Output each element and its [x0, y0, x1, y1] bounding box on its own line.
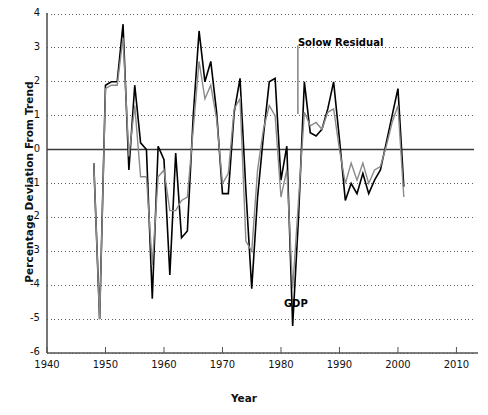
chart-figure: Percentage Deviation From Trend Year 432…	[0, 0, 488, 415]
x-axis-title: Year	[0, 392, 488, 404]
y-tick-label: -1	[14, 177, 40, 188]
y-tick-label: -2	[14, 210, 40, 221]
y-tick-label: 1	[14, 109, 40, 120]
y-tick-label: 3	[14, 41, 40, 52]
axis-spines	[47, 13, 478, 353]
axis-ticks	[47, 347, 456, 353]
y-tick-label: -5	[14, 312, 40, 323]
x-tick-label: 2000	[376, 359, 420, 370]
solow-residual-annotation: Solow Residual	[298, 37, 383, 48]
grid-lines	[47, 14, 474, 353]
x-tick-label: 1980	[259, 359, 303, 370]
chart-plot-area	[0, 0, 488, 415]
x-tick-label: 1970	[200, 359, 244, 370]
series-lines	[94, 24, 404, 326]
y-tick-label: 4	[14, 7, 40, 18]
y-tick-label: -6	[14, 346, 40, 357]
y-tick-label: -3	[14, 244, 40, 255]
x-tick-label: 1990	[317, 359, 361, 370]
x-tick-label: 1960	[142, 359, 186, 370]
y-tick-label: -4	[14, 278, 40, 289]
gdp-annotation: GDP	[284, 298, 308, 309]
y-tick-label: 2	[14, 75, 40, 86]
x-tick-label: 1950	[83, 359, 127, 370]
x-tick-label: 2010	[434, 359, 478, 370]
x-tick-label: 1940	[25, 359, 69, 370]
y-tick-label: 0	[14, 143, 40, 154]
